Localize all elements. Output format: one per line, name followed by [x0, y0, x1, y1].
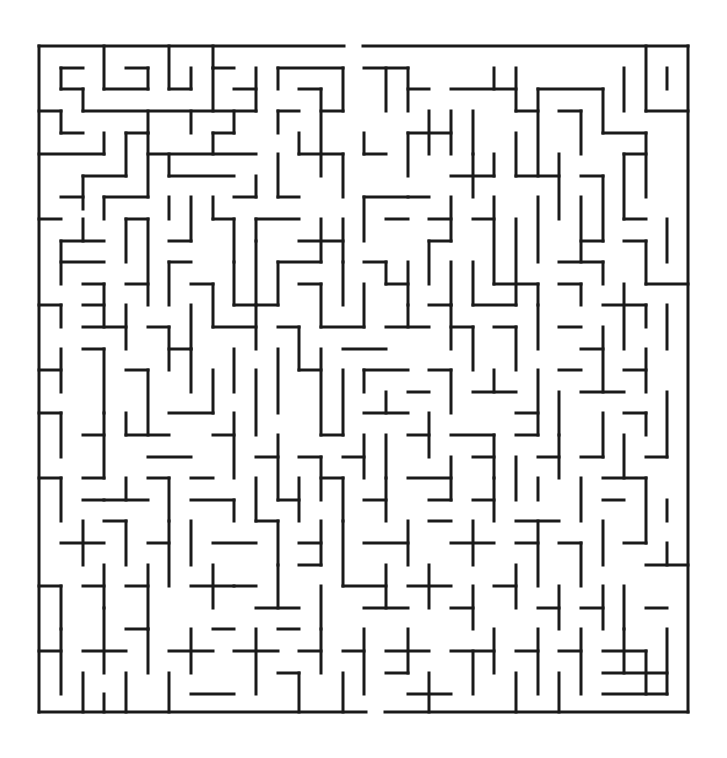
maze-grid	[0, 0, 727, 758]
maze-exit[interactable]	[366, 702, 385, 722]
maze-puzzle	[0, 0, 727, 758]
maze-entrance[interactable]	[344, 36, 363, 56]
